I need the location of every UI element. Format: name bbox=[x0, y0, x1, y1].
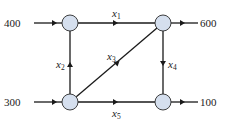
arrow-up-icon bbox=[67, 62, 73, 67]
edge-label-x3: x3 bbox=[106, 50, 116, 64]
arrow-right-icon bbox=[180, 20, 185, 26]
outflow-600: 600 bbox=[171, 17, 217, 29]
edge-x2: x2 bbox=[55, 31, 73, 94]
edge-x1: x1 bbox=[78, 7, 155, 26]
arrow-right-icon bbox=[52, 99, 57, 105]
node-top-right bbox=[155, 15, 171, 31]
inflow-label: 400 bbox=[4, 17, 21, 29]
outflow-100: 100 bbox=[171, 96, 217, 108]
node-top-left bbox=[62, 15, 78, 31]
edge-label-x4: x4 bbox=[167, 58, 177, 72]
edge-label-x5: x5 bbox=[111, 107, 121, 121]
edge-x3: x3 bbox=[76, 28, 157, 97]
node-bottom-left bbox=[62, 94, 78, 110]
edge-label-x2: x2 bbox=[55, 58, 65, 72]
outflow-label: 100 bbox=[200, 96, 217, 108]
inflow-label: 300 bbox=[4, 96, 21, 108]
arrow-down-icon bbox=[160, 61, 166, 66]
flow-network-diagram: 400 300 600 100 x1 x2 x3 x4 bbox=[0, 0, 227, 126]
node-bottom-right bbox=[155, 94, 171, 110]
inflow-300: 300 bbox=[4, 96, 62, 108]
edge-x4: x4 bbox=[160, 31, 177, 94]
arrow-right-icon bbox=[52, 20, 57, 26]
edge-x5: x5 bbox=[78, 99, 155, 121]
outflow-label: 600 bbox=[200, 17, 217, 29]
inflow-400: 400 bbox=[4, 17, 62, 29]
edge-label-x1: x1 bbox=[111, 7, 121, 21]
arrow-right-icon bbox=[180, 99, 185, 105]
arrow-right-icon bbox=[113, 99, 118, 105]
